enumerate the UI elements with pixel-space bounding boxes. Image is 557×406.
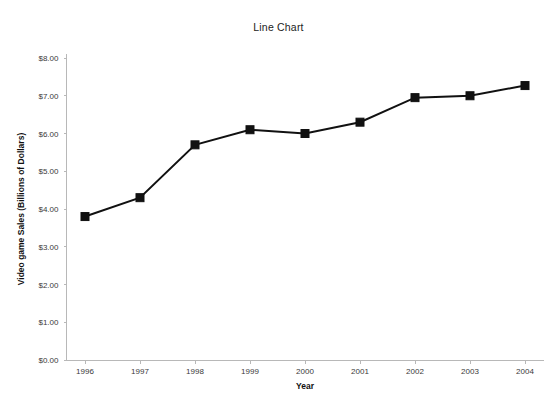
- y-tick-label: $2.00: [38, 281, 59, 290]
- data-point-marker: [466, 92, 474, 100]
- data-point-marker: [301, 130, 309, 138]
- y-tick-label: $7.00: [38, 92, 59, 101]
- y-axis-title: Video game Sales (Billions of Dollars): [16, 133, 26, 286]
- x-tick-label: 2001: [351, 367, 369, 376]
- y-tick-label: $5.00: [38, 167, 59, 176]
- data-point-marker: [521, 82, 529, 90]
- x-tick-label: 1996: [76, 367, 94, 376]
- y-tick-label: $0.00: [38, 356, 59, 365]
- series-markers: [81, 82, 529, 221]
- x-tick-label: 1997: [131, 367, 149, 376]
- data-point-marker: [136, 194, 144, 202]
- data-point-marker: [246, 126, 254, 134]
- x-tick-label: 1999: [241, 367, 259, 376]
- x-tick-label: 2002: [406, 367, 424, 376]
- line-chart-figure: Line Chart $0.00$1.00$2.00$3.00$4.00$5.0…: [0, 0, 557, 406]
- data-point-marker: [81, 213, 89, 221]
- y-tick-label: $1.00: [38, 318, 59, 327]
- data-point-marker: [356, 118, 364, 126]
- x-tick-label: 2000: [296, 367, 314, 376]
- x-axis-title: Year: [296, 381, 315, 391]
- series-line-video-game-sales: [85, 86, 525, 217]
- chart-plot-area: $0.00$1.00$2.00$3.00$4.00$5.00$6.00$7.00…: [0, 0, 557, 406]
- y-tick-label: $8.00: [38, 54, 59, 63]
- data-point-marker: [411, 94, 419, 102]
- x-tick-label: 1998: [186, 367, 204, 376]
- y-axis-ticks: $0.00$1.00$2.00$3.00$4.00$5.00$6.00$7.00…: [38, 54, 66, 365]
- y-tick-label: $6.00: [38, 130, 59, 139]
- x-tick-label: 2003: [461, 367, 479, 376]
- y-tick-label: $3.00: [38, 243, 59, 252]
- x-axis-ticks: 199619971998199920002001200220032004: [76, 360, 534, 376]
- y-tick-label: $4.00: [38, 205, 59, 214]
- data-point-marker: [191, 141, 199, 149]
- x-tick-label: 2004: [516, 367, 534, 376]
